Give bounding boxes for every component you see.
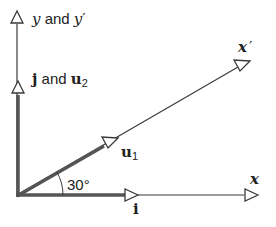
x-axis-arrowhead-icon [245,189,258,201]
u1-vector-line [17,146,104,196]
y-prime-mark: ′ [82,10,86,28]
coordinate-diagram: y and y′ j and u2 x′ u1 30° x i [0,0,276,227]
i-label: i [133,200,139,218]
x-axis-label: x [249,170,260,188]
j-bold: j [30,70,37,88]
u2-subscript: 2 [82,77,88,89]
u1-bold: u [121,143,132,161]
u1-label: u1 [121,143,138,162]
y-axis-arrowhead-icon [11,11,23,23]
angle-label: 30° [67,176,90,193]
j-u2-vector-arrowhead-icon [12,81,24,93]
x-prime-var: x [237,38,248,56]
u1-vector-arrowhead-icon [102,137,118,148]
j-u2-connector: and [37,70,70,87]
u2-bold: u [71,70,82,88]
x-prime-axis-label: x′ [237,38,253,56]
angle-arc [57,172,63,195]
x-prime-axis-arrowhead-icon [234,60,250,71]
u1-subscript: 1 [132,150,138,162]
y-connector: and [40,10,73,27]
j-u2-label: j and u2 [30,70,88,89]
x-prime-mark: ′ [249,38,253,56]
y-axis-label: y and y′ [31,10,86,28]
